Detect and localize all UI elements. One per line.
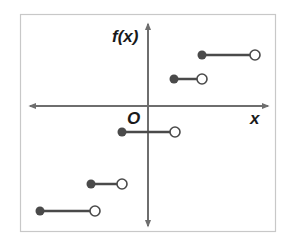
open-dot [250, 50, 260, 60]
closed-dot [170, 75, 179, 84]
closed-dot [36, 207, 45, 216]
open-dot [90, 206, 100, 216]
closed-dot [118, 128, 127, 137]
y-axis-label: f(x) [112, 27, 139, 46]
step-function-graph: f(x) x O [0, 0, 288, 241]
closed-dot [198, 51, 207, 60]
open-dot [170, 127, 180, 137]
open-dot [117, 179, 127, 189]
closed-dot [87, 180, 96, 189]
open-dot [197, 74, 207, 84]
origin-label: O [127, 109, 140, 128]
x-axis-label: x [249, 109, 261, 128]
